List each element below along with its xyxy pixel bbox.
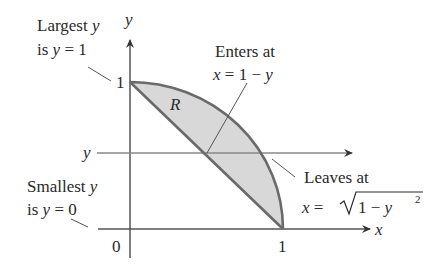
svg-text:x =: x = — [301, 198, 323, 217]
largest-y-pointer — [88, 67, 111, 81]
y-tick-label: 1 — [116, 73, 125, 92]
enters-at-line2: x = 1 − y — [212, 65, 273, 84]
largest-y-line1: Largest y — [37, 16, 100, 35]
region-label: R — [169, 95, 181, 114]
leaves-at-line2: x = 1 − y 2 — [301, 192, 423, 217]
y-axis-label: y — [123, 10, 133, 29]
region-diagram: y x 0 1 1 y R Largest y is y = 1 Smalles… — [0, 0, 447, 271]
smallest-y-pointer — [71, 219, 88, 227]
x-tick-label: 1 — [278, 237, 287, 256]
enters-at-line1: Enters at — [215, 42, 275, 61]
leaves-at-line1: Leaves at — [304, 168, 369, 187]
svg-text:2: 2 — [415, 193, 421, 205]
smallest-y-line2: is y = 0 — [27, 200, 77, 219]
smallest-y-line1: Smallest y — [27, 177, 98, 196]
leaves-at-pointer — [272, 159, 295, 177]
largest-y-line2: is y = 1 — [37, 40, 87, 59]
horizontal-line-label: y — [81, 143, 91, 162]
x-axis-label: x — [374, 220, 383, 239]
svg-text:1 − y: 1 − y — [358, 198, 393, 217]
origin-label: 0 — [112, 237, 121, 256]
